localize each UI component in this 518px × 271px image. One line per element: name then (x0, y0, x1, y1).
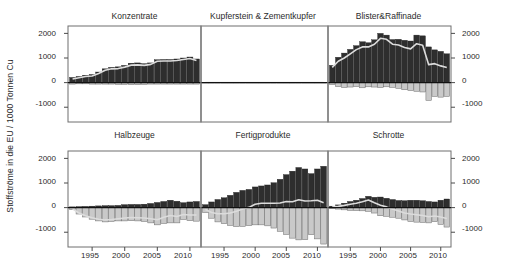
bar-export (414, 83, 420, 92)
bar-import (154, 60, 160, 83)
bar-export (396, 83, 402, 89)
bar-export (296, 208, 302, 240)
bar-import (135, 63, 141, 83)
bar-import (420, 201, 426, 208)
bar-export (432, 83, 438, 97)
bar-export (384, 83, 390, 87)
bar-import (141, 64, 147, 83)
bar-import (372, 40, 378, 83)
bar-import (227, 195, 233, 207)
bar-import (148, 63, 154, 83)
bar-export (390, 83, 396, 88)
bar-export (315, 208, 321, 239)
bar-export (283, 208, 289, 235)
bar-import (161, 201, 167, 207)
bar-import (408, 200, 414, 207)
bar-export (135, 208, 141, 221)
bar-import (259, 186, 265, 208)
bar-export (141, 208, 147, 222)
bar-import (444, 54, 450, 83)
bar-import (265, 185, 271, 208)
bar-import (360, 199, 366, 208)
bar-export (161, 208, 167, 224)
bar-import (384, 35, 390, 83)
panel-frame-p6 (328, 151, 451, 247)
bar-export (221, 208, 227, 224)
bar-export (438, 83, 444, 98)
bar-export (378, 83, 384, 88)
bar-export (128, 208, 134, 221)
bar-export (265, 208, 271, 226)
bar-import (390, 40, 396, 83)
bar-export (321, 208, 327, 244)
bar-export (360, 83, 366, 88)
bar-import (366, 43, 372, 83)
bar-import (161, 59, 167, 82)
bar-import (193, 201, 199, 207)
bar-import (329, 65, 335, 82)
bar-import (187, 202, 193, 208)
bar-export (215, 208, 221, 222)
bar-export (426, 208, 432, 223)
bar-import (148, 203, 154, 207)
bar-import (420, 36, 426, 83)
bar-import (302, 169, 308, 208)
panel-frame-p2 (201, 26, 328, 122)
bar-export (432, 208, 438, 222)
panel-p2 (201, 26, 328, 122)
bar-export (227, 208, 233, 226)
bar-import (167, 200, 173, 207)
bar-import (396, 200, 402, 207)
bar-export (271, 208, 277, 228)
bar-export (252, 208, 258, 225)
bar-import (180, 58, 186, 83)
bar-import (193, 59, 199, 83)
bar-export (426, 83, 432, 101)
bar-import (180, 203, 186, 208)
bar-import (444, 199, 450, 208)
bar-export (408, 83, 414, 91)
bar-import (432, 202, 438, 208)
bar-export (402, 83, 408, 90)
bar-import (426, 201, 432, 207)
bar-import (438, 200, 444, 207)
bar-import (167, 59, 173, 82)
bar-import (414, 200, 420, 207)
plot-canvas (0, 0, 518, 271)
bar-export (180, 208, 186, 220)
bar-import (402, 201, 408, 208)
bar-export (277, 208, 283, 232)
bar-import (209, 202, 215, 208)
bar-import (240, 190, 246, 207)
bar-export (342, 83, 348, 88)
bar-import (296, 167, 302, 207)
bar-export (308, 208, 314, 235)
bar-export (366, 83, 372, 87)
bar-export (290, 208, 296, 239)
bar-import (366, 196, 372, 207)
panel-frame-p4 (68, 151, 201, 247)
bar-export (154, 208, 160, 225)
bar-import (246, 189, 252, 207)
bar-export (384, 208, 390, 217)
bar-export (302, 208, 308, 240)
panel-p5 (201, 151, 328, 251)
bar-export (378, 208, 384, 216)
bar-import (390, 199, 396, 207)
bar-export (372, 83, 378, 87)
panel-p4 (64, 151, 201, 251)
bar-import (308, 174, 314, 208)
bar-export (348, 83, 354, 87)
bar-import (414, 35, 420, 83)
bar-import (215, 199, 221, 207)
bar-export (396, 208, 402, 219)
bar-import (187, 57, 193, 83)
bar-export (420, 83, 426, 92)
bar-import (174, 59, 180, 83)
panel-p1 (64, 26, 201, 122)
bar-import (154, 202, 160, 207)
panel-p6 (328, 151, 455, 251)
figure-root: Stoffströme in die EU / 1000 Tonnen Cu K… (0, 0, 518, 271)
bar-export (246, 208, 252, 226)
bar-import (432, 50, 438, 83)
